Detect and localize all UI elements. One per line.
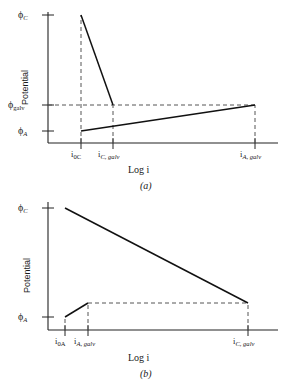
x-tick-label-i0C-a: i0C [71, 149, 81, 159]
x-axis-title-a: Log i [128, 164, 149, 175]
i-subscript: C, galv [100, 153, 119, 160]
x-axis-title-variable: i [147, 352, 150, 363]
x-tick-label-i0A-b: i0A [55, 336, 65, 346]
y-tick-label-phi-A-a: ϕA [18, 125, 27, 136]
x-tick-label-iA-galv-a: iA, galv [240, 149, 261, 159]
i-subscript: A, galv [242, 153, 261, 160]
i-subscript: 0C [73, 153, 81, 160]
x-axis-title-variable: i [147, 164, 150, 175]
x-axis-title-text: Log [128, 164, 144, 175]
evans-diagram-panel-b: Potential ϕC ϕA i0A iA, galv iC, galv Lo… [0, 190, 289, 387]
i-subscript: A, galv [76, 340, 95, 347]
cathodic-polarization-curve-b [65, 208, 248, 303]
x-tick-label-iC-galv-a: iC, galv [98, 149, 119, 159]
x-tick-label-iC-galv-b: iC, galv [233, 336, 254, 346]
phi-subscript: A [23, 316, 27, 323]
i-subscript: 0A [57, 340, 65, 347]
evans-diagram-panel-a: Potential ϕC ϕgalv ϕA i0C iC, galv iA, g… [0, 0, 289, 196]
y-axis-title-b: Potential [22, 258, 32, 293]
panel-caption-b: (b) [140, 368, 152, 379]
phi-subscript: C [23, 207, 27, 214]
y-tick-label-phi-galv-a: ϕgalv [8, 99, 25, 110]
y-tick-label-phi-C-b: ϕC [18, 202, 28, 213]
x-axis-title-b: Log i [128, 352, 149, 363]
i-subscript: C, galv [235, 340, 254, 347]
x-tick-label-iA-galv-b: iA, galv [74, 336, 95, 346]
y-tick-label-phi-C-a: ϕC [18, 9, 28, 20]
phi-subscript: galv [13, 104, 24, 111]
y-tick-label-phi-A-b: ϕA [18, 311, 27, 322]
cathodic-polarization-curve-a [81, 15, 113, 105]
x-axis-title-text: Log [128, 352, 144, 363]
anodic-polarization-curve-b [65, 303, 88, 317]
anodic-polarization-curve-a [81, 105, 255, 131]
phi-subscript: C [23, 14, 27, 21]
phi-subscript: A [23, 130, 27, 137]
